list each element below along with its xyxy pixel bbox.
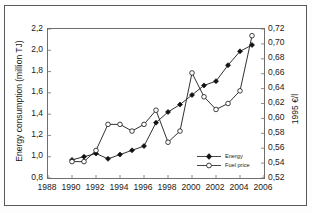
legend-symbol-open-circle xyxy=(196,161,222,170)
y-tick-right-5: 0,62 xyxy=(268,97,298,107)
y-tick-right-2: 0,56 xyxy=(268,142,298,152)
y-tick-right-8: 0,68 xyxy=(268,52,298,62)
y-tick-right-3: 0,58 xyxy=(268,127,298,137)
y-tick-left-1: 1,0 xyxy=(15,150,43,160)
legend-item-fuel-price: Fuel price xyxy=(196,161,250,170)
y-tick-left-4: 1,6 xyxy=(15,86,43,96)
y-tick-left-5: 1,8 xyxy=(15,65,43,75)
y-tick-right-1: 0,54 xyxy=(268,157,298,167)
legend-item-energy: Energy xyxy=(196,152,250,161)
legend-label-energy: Energy xyxy=(225,152,243,161)
chart-figure: Energy consumption (million TJ) 1995 €/l… xyxy=(0,0,312,213)
y-tick-left-3: 1,4 xyxy=(15,108,43,118)
y-tick-right-7: 0,66 xyxy=(268,67,298,77)
y-tick-right-10: 0,72 xyxy=(268,23,298,33)
y-tick-right-6: 0,64 xyxy=(268,82,298,92)
y-axis-right-title: 1995 €/l xyxy=(290,64,300,154)
y-tick-left-6: 2,0 xyxy=(15,44,43,54)
y-tick-left-0: 0,8 xyxy=(15,172,43,182)
y-tick-right-9: 0,70 xyxy=(268,37,298,47)
y-tick-left-7: 2,2 xyxy=(15,23,43,33)
chart-legend: Energy Fuel price xyxy=(196,152,250,170)
y-tick-right-4: 0,60 xyxy=(268,112,298,122)
legend-label-fuel-price: Fuel price xyxy=(225,161,250,170)
y-tick-left-2: 1,2 xyxy=(15,129,43,139)
y-tick-right-0: 0,52 xyxy=(268,172,298,182)
x-tick-9: 2006 xyxy=(248,182,278,192)
legend-symbol-filled-diamond xyxy=(196,152,222,161)
